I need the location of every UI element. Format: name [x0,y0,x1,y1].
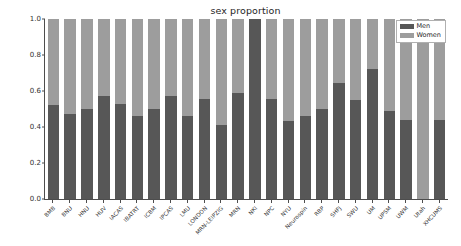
stacked-bar[interactable] [115,19,126,199]
y-axis-tick-mark [42,91,45,92]
bar-segment-men [283,121,294,199]
stacked-bar[interactable] [249,19,260,199]
legend-entry[interactable]: Men [400,23,441,30]
x-axis-tick-mark [237,200,238,203]
stacked-bar[interactable] [300,19,311,199]
stacked-bar[interactable] [132,19,143,199]
bars-container [45,19,448,199]
stacked-bar[interactable] [434,19,445,199]
legend-label: Men [417,23,431,30]
stacked-bar[interactable] [199,19,210,199]
chart-legend: MenWomen [396,20,446,43]
legend-swatch-icon [400,33,414,38]
x-axis-tick-label: RBP [313,205,325,217]
stacked-bar[interactable] [81,19,92,199]
bar-segment-men [115,104,126,199]
x-axis-tick: SWU [346,200,363,246]
y-axis-tick-mark [42,163,45,164]
legend-entry[interactable]: Women [400,32,441,39]
stacked-bar[interactable] [48,19,59,199]
x-axis-tick-mark [69,200,70,203]
x-axis-tick-mark [220,200,221,203]
bar-segment-men [81,109,92,199]
x-axis-tick-mark [103,200,104,203]
bar-segment-women [148,19,159,109]
x-axis-tick: Neurospin [296,200,313,246]
stacked-bar[interactable] [384,19,395,199]
x-axis-tick-mark [388,200,389,203]
bar-segment-women [98,19,109,96]
stacked-bar[interactable] [350,19,361,199]
figure-canvas: sex proportion 1.00.80.60.40.20.0 BMBBNU… [0,0,461,246]
bar-segment-women [216,19,227,125]
y-axis-tick-mark [42,127,45,128]
bar-slot [347,19,364,199]
x-axis-tick-label: BNU [61,205,74,218]
bar-segment-men [316,109,327,199]
bar-segment-women [232,19,243,93]
bar-segment-men [98,96,109,200]
x-axis-tick-label: MRN [228,205,241,219]
stacked-bar[interactable] [98,19,109,199]
y-axis-tick-mark [42,55,45,56]
stacked-bar[interactable] [232,19,243,199]
x-axis-tick: IPCAS [162,200,179,246]
bar-slot [112,19,129,199]
x-axis-tick-label: SHFJ [329,205,342,218]
x-axis-tick: UM [363,200,380,246]
bar-segment-men [434,120,445,199]
x-axis-tick-mark [204,200,205,203]
x-axis-tick-label: UPSM [377,205,392,221]
x-axis-tick: SHFJ [330,200,347,246]
x-axis-tick-label: UWM [395,205,409,220]
x-axis-tick-label: LMU [178,205,191,218]
stacked-bar[interactable] [400,19,411,199]
bar-segment-men [333,83,344,199]
bar-segment-men [266,99,277,199]
stacked-bar[interactable] [283,19,294,199]
stacked-bar[interactable] [417,19,428,199]
x-axis-tick-mark [304,200,305,203]
stacked-bar[interactable] [333,19,344,199]
bar-segment-men [199,99,210,199]
x-axis-tick: HNU [78,200,95,246]
bar-segment-women [165,19,176,96]
bar-slot [297,19,314,199]
x-axis-tick: UPSM [380,200,397,246]
bar-segment-women [350,19,361,100]
x-axis-tick-label: ICBM [143,205,157,220]
x-axis-tick: ICBM [145,200,162,246]
chart-title: sex proportion [0,5,461,16]
bar-segment-men [216,125,227,199]
x-axis-tick: BMB [44,200,61,246]
bar-slot [398,19,415,199]
x-axis-tick-mark [372,200,373,203]
x-axis-tick: RBP [313,200,330,246]
stacked-bar[interactable] [316,19,327,199]
bar-segment-men [48,105,59,199]
stacked-bar[interactable] [165,19,176,199]
legend-swatch-icon [400,24,414,29]
stacked-bar[interactable] [216,19,227,199]
x-axis-tick: BNU [61,200,78,246]
stacked-bar[interactable] [148,19,159,199]
bar-segment-women [417,19,428,199]
x-axis-tick: IBATRT [128,200,145,246]
stacked-bar[interactable] [367,19,378,199]
bar-slot [381,19,398,199]
stacked-bar[interactable] [64,19,75,199]
stacked-bar[interactable] [266,19,277,199]
x-axis-tick-mark [52,200,53,203]
x-axis-tick-mark [355,200,356,203]
bar-slot [179,19,196,199]
bar-slot [263,19,280,199]
stacked-bar[interactable] [182,19,193,199]
legend-label: Women [417,32,441,39]
bar-slot [314,19,331,199]
bar-segment-women [48,19,59,105]
x-axis-tick: MRN-LEIPZIG [212,200,229,246]
bar-slot [364,19,381,199]
bar-slot [213,19,230,199]
x-axis-tick-mark [120,200,121,203]
bar-segment-women [115,19,126,104]
